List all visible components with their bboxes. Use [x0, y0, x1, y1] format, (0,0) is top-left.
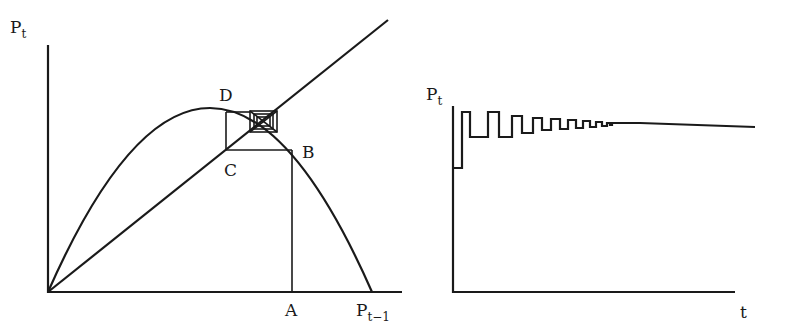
- left-x-axis-label: Pt−1: [356, 300, 390, 324]
- cobweb-box: [250, 111, 277, 132]
- right-x-axis-label: t: [740, 302, 747, 322]
- hump-curve: [48, 108, 372, 292]
- figure: Pt D C B A Pt−1 Pt t: [0, 0, 786, 334]
- time-series: [453, 112, 755, 168]
- label-A: A: [284, 300, 298, 320]
- right-panel: Pt t: [426, 84, 755, 322]
- label-C: C: [224, 160, 237, 180]
- left-y-axis-label: Pt: [10, 17, 26, 41]
- label-D: D: [219, 85, 233, 105]
- right-y-axis-label: Pt: [426, 84, 442, 108]
- diagonal-line: [48, 20, 388, 292]
- left-panel: Pt D C B A Pt−1: [10, 17, 402, 324]
- label-B: B: [302, 142, 315, 162]
